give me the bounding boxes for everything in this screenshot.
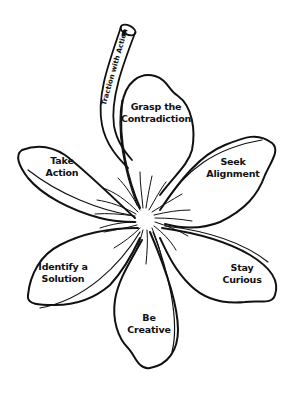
petal-upper-right-line2: Alignment — [206, 168, 259, 180]
petal-upper-left-line1: Take — [46, 155, 79, 167]
petal-bottom-line1: Be — [127, 312, 170, 324]
petal-lower-left-line1: Identify a — [38, 261, 87, 273]
petal-lower-left-label: Identify a Solution — [38, 261, 87, 285]
flower-drawing — [0, 0, 297, 397]
petal-lower-right-line1: Stay — [222, 262, 261, 274]
petal-top-shape — [120, 75, 193, 208]
petal-upper-left-label: Take Action — [46, 155, 79, 179]
flower-diagram: Traction with Action Grasp the Contradic… — [0, 0, 297, 397]
petal-bottom-shape — [114, 232, 178, 368]
petal-bottom-label: Be Creative — [127, 312, 170, 336]
petal-top-line1: Grasp the — [121, 101, 191, 113]
petal-upper-right-label: Seek Alignment — [206, 156, 259, 180]
petal-top-line2: Contradiction — [121, 113, 191, 125]
petal-lower-left-line2: Solution — [38, 273, 87, 285]
petal-top-label: Grasp the Contradiction — [121, 101, 191, 125]
petal-bottom-line2: Creative — [127, 324, 170, 336]
petal-upper-right-line1: Seek — [206, 156, 259, 168]
petal-lower-right-label: Stay Curious — [222, 262, 261, 286]
petal-upper-right-shape — [160, 137, 275, 228]
petal-upper-left-line2: Action — [46, 167, 79, 179]
petal-lower-right-line2: Curious — [222, 274, 261, 286]
